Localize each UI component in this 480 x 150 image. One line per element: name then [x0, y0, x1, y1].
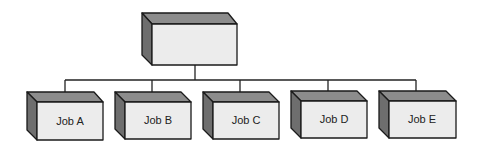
- job-e-label: Job E: [408, 113, 436, 125]
- job-a-top: [27, 92, 103, 102]
- job-d-top: [291, 91, 367, 101]
- root-box-top: [142, 13, 237, 24]
- root-box: [142, 13, 237, 65]
- job-c-top: [203, 92, 279, 102]
- job-b-label: Job B: [144, 114, 172, 126]
- org-chart-diagram: Job A Job B Job C Job D Job E: [0, 0, 480, 150]
- job-e-top: [379, 91, 456, 101]
- job-d-label: Job D: [320, 113, 349, 125]
- job-c-label: Job C: [232, 114, 261, 126]
- root-box-front: [152, 24, 237, 65]
- job-b-top: [115, 92, 191, 102]
- job-a-label: Job A: [56, 115, 84, 127]
